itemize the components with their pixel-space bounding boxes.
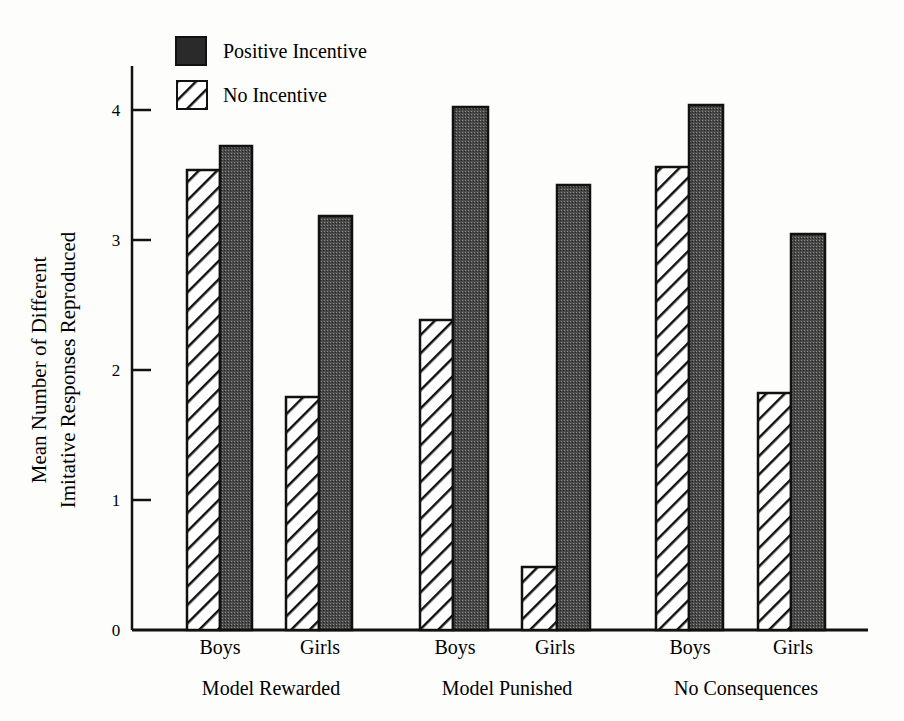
bar-mp-girls-positive-incentive (557, 185, 590, 630)
cat-label-nc-girls: Girls (773, 636, 813, 658)
legend-label-positive-incentive: Positive Incentive (223, 40, 367, 62)
bar-mr-girls-positive-incentive (319, 216, 352, 630)
bar-chart: Positive Incentive No Incentive 0 1 2 3 … (0, 0, 904, 721)
x-category-labels: Boys Girls Boys Girls Boys Girls (199, 636, 813, 659)
y-axis: 0 1 2 3 4 (112, 66, 151, 640)
x-group-labels: Model Rewarded Model Punished No Consequ… (202, 677, 818, 700)
y-axis-title: Mean Number of Different Imitative Respo… (27, 231, 80, 508)
legend: Positive Incentive No Incentive (176, 37, 367, 109)
ytick-label-1: 1 (112, 491, 121, 510)
ytick-label-2: 2 (112, 361, 121, 380)
bar-nc-girls-no-incentive (758, 393, 791, 630)
svg-text:Imitative Responses Reproduced: Imitative Responses Reproduced (56, 231, 80, 508)
group-label-model-punished: Model Punished (442, 677, 573, 699)
cat-label-mr-girls: Girls (300, 636, 340, 658)
cat-label-mr-boys: Boys (199, 636, 240, 659)
ytick-label-3: 3 (112, 231, 121, 250)
bar-mr-girls-no-incentive (286, 397, 319, 630)
bars (187, 105, 825, 630)
ytick-label-4: 4 (112, 101, 121, 120)
ytick-label-0: 0 (112, 621, 121, 640)
legend-label-no-incentive: No Incentive (223, 84, 327, 106)
bar-mp-boys-positive-incentive (453, 107, 488, 630)
bar-mp-girls-no-incentive (522, 567, 557, 630)
cat-label-mp-girls: Girls (535, 636, 575, 658)
cat-label-mp-boys: Boys (434, 636, 475, 659)
bar-mr-boys-positive-incentive (220, 146, 252, 630)
bar-nc-girls-positive-incentive (791, 234, 825, 630)
bar-mr-boys-no-incentive (187, 170, 220, 630)
bar-nc-boys-positive-incentive (689, 105, 723, 630)
bar-nc-boys-no-incentive (656, 167, 689, 630)
bar-mp-boys-no-incentive (420, 320, 453, 630)
group-label-no-consequences: No Consequences (674, 677, 818, 700)
legend-swatch-no-incentive (177, 81, 207, 109)
svg-text:Mean Number of Different: Mean Number of Different (27, 257, 51, 484)
group-label-model-rewarded: Model Rewarded (202, 677, 340, 699)
cat-label-nc-boys: Boys (669, 636, 710, 659)
legend-swatch-positive-incentive (176, 37, 206, 65)
